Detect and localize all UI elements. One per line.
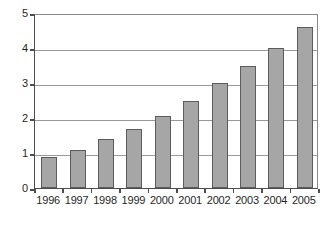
x-tick-mark <box>290 189 292 193</box>
x-tick-mark <box>34 189 36 193</box>
y-tick-mark <box>30 14 34 16</box>
x-tick-mark <box>91 189 93 193</box>
x-tick-mark <box>233 189 235 193</box>
y-tick-label: 1 <box>6 148 28 159</box>
x-tick-label: 1999 <box>119 194 147 207</box>
bar <box>126 129 142 189</box>
x-tick-mark <box>261 189 263 193</box>
y-tick-label: 4 <box>6 43 28 54</box>
y-tick-mark <box>30 84 34 86</box>
x-tick-label: 1996 <box>34 194 62 207</box>
bar <box>297 27 313 188</box>
x-tick-mark <box>119 189 121 193</box>
x-tick-label: 2003 <box>233 194 261 207</box>
y-tick-label: 5 <box>6 8 28 19</box>
y-tick-label: 3 <box>6 78 28 89</box>
y-tick-mark <box>30 119 34 121</box>
x-tick-label: 2005 <box>290 194 318 207</box>
bar <box>268 48 284 188</box>
plot-area <box>34 14 318 189</box>
x-tick-mark <box>176 189 178 193</box>
y-tick-label: 2 <box>6 113 28 124</box>
y-tick-mark <box>30 154 34 156</box>
bar <box>155 116 171 188</box>
x-tick-mark <box>318 189 320 193</box>
x-tick-label: 1998 <box>91 194 119 207</box>
x-axis: 1996199719981999200020012002200320042005 <box>34 194 318 214</box>
y-axis: 012345 <box>0 0 30 229</box>
x-tick-mark <box>62 189 64 193</box>
x-tick-label: 2001 <box>176 194 204 207</box>
x-tick-mark <box>148 189 150 193</box>
bar <box>212 83 228 188</box>
x-tick-label: 1997 <box>62 194 90 207</box>
x-tick-label: 2002 <box>204 194 232 207</box>
y-tick-mark <box>30 49 34 51</box>
x-tick-mark <box>204 189 206 193</box>
bar <box>70 150 86 189</box>
y-tick-label: 0 <box>6 183 28 194</box>
bar <box>183 101 199 189</box>
bar <box>41 157 57 189</box>
x-tick-label: 2000 <box>148 194 176 207</box>
bar-series <box>35 15 317 188</box>
x-tick-label: 2004 <box>261 194 289 207</box>
bar <box>98 139 114 188</box>
bar <box>240 66 256 189</box>
bar-chart: 012345 199619971998199920002001200220032… <box>0 0 332 229</box>
